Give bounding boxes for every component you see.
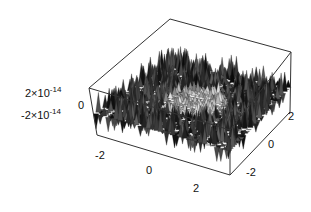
z-tick-zero: 0 <box>78 100 84 111</box>
y-tick-2: 2 <box>288 111 294 122</box>
y-tick-0: 0 <box>268 139 274 150</box>
z-tick-top: 2×10-14 <box>25 86 61 99</box>
x-tick-2: 2 <box>193 183 199 194</box>
x-tick-0: 0 <box>146 165 152 176</box>
x-tick-neg2: -2 <box>95 150 105 161</box>
z-tick-bottom: -2×10-14 <box>21 108 61 121</box>
surface-plot <box>0 0 311 212</box>
y-tick-neg2: -2 <box>246 167 256 178</box>
surface-mesh <box>94 47 291 162</box>
